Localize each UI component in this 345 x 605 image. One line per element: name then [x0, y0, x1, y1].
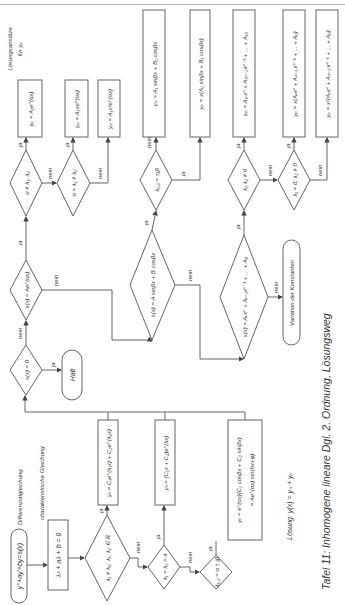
- yp-trig-1-text: yₚ = A₁ sinβx + B₁ cosβx: [152, 41, 158, 107]
- yes-label: ja: [17, 240, 23, 246]
- flowchart: y''+ay'+by=s(x) Differenzialgleichung λ²…: [0, 0, 345, 605]
- yes-label: ja: [64, 142, 70, 148]
- yh-real-distinct-text: yₕ = C₁e^(λ₁x) + C₂e^(λ₂x): [106, 429, 112, 498]
- yes-label: ja: [207, 546, 213, 552]
- no-label: nein: [187, 551, 193, 563]
- figure-caption: Tafel 11: Inhomogene lineare Dgl. 2. Ord…: [320, 313, 332, 590]
- no-label: nein: [317, 164, 323, 176]
- d-l1-zero-text: λ₁ = 0; λ₂ ≠ 0: [292, 163, 298, 198]
- ansatz-header-2: für yₚ: [17, 42, 23, 57]
- no-label: nein: [53, 274, 59, 286]
- label-differential-equation: Differenzialgleichung: [17, 469, 23, 525]
- yes-label: ja: [155, 534, 161, 540]
- flowchart-canvas: y''+ay'+by=s(x) Differenzialgleichung λ²…: [0, 0, 345, 605]
- d-double-root-text: λ₁ = λ₂ = λ: [162, 554, 168, 582]
- d-real-distinct-text: λ₁ ≠ λ₂; λ₁, λ₂ ∈ ℝ: [105, 535, 111, 583]
- yes-label: ja: [17, 142, 23, 148]
- char-eq-text: λ² + aλ + b = 0: [55, 532, 62, 578]
- yp-trig-2-text: yₚ = x(A₁ sinβx + B₁ cosβx): [198, 38, 204, 111]
- d-s-zero-text: s(x) = 0: [24, 359, 30, 380]
- yh-double-root-text: yₕ = (C₁x + C₂)e^(λx): [163, 436, 169, 492]
- start-text: y''+ay'+by=s(x): [16, 543, 24, 590]
- yp-poly-1-text: yₚ = A₁ₙxⁿ + A₁₍ₙ₋₁₎xⁿ⁻¹ + ... + A₁₀: [242, 31, 248, 117]
- variation-text: Variation der Konstanten: [289, 259, 295, 325]
- yh-complex-text-1: yₕ = e^(αx)(C₁ cosβx + C₂ sinβx): [236, 437, 242, 523]
- no-label: nein: [97, 167, 103, 179]
- no-label: nein: [187, 269, 193, 281]
- yes-label: ja: [180, 171, 186, 177]
- yp-exp-3-text: yₚ = A₁x²e^(αx): [107, 89, 113, 130]
- d-alpha-ne-text: α ≠ λ₁, λ₂: [24, 171, 30, 195]
- yh-complex-text-2: = Ae^(αx) sin(bx+φ): [249, 454, 255, 507]
- d-l1l2-ne0-text: λ₁·λ₂ ≠ 0: [242, 168, 248, 192]
- d-s-trig-text: s(x) = A sinβx + B cosβx: [150, 252, 156, 317]
- ansatz-header-1: Lösungsansätze: [7, 26, 13, 70]
- no-label: nein: [146, 136, 152, 148]
- yes-label: ja: [50, 362, 56, 368]
- yh-box-complex: [228, 420, 262, 540]
- yes-label: ja: [143, 220, 149, 226]
- no-label: nein: [267, 164, 273, 176]
- d-lambda-jbeta-text: λ₁,₂ = ±jβ: [154, 168, 160, 193]
- no-label: nein: [135, 541, 141, 553]
- d-alpha-eq-l1-text: α = λ₁ ≠ λ₂: [71, 169, 77, 197]
- halt-text: Halt: [69, 368, 76, 382]
- d-complex-text: λ₁,₂ = α ± jβ: [214, 556, 220, 588]
- yp-poly-2-text: yₚ = x(Aₙxⁿ + A₍ₙ₋₁₎xⁿ⁻¹ + ... + A₀): [292, 31, 298, 118]
- yes-label: ja: [235, 224, 241, 230]
- yes-label: ja: [235, 143, 241, 149]
- solution-label: Lösung: y(x) = yₕ + yₚ: [286, 473, 294, 540]
- no-label: nein: [47, 167, 53, 179]
- yes-label: ja: [98, 508, 104, 514]
- no-label: nein: [17, 327, 23, 339]
- yp-poly-3-text: yₚ = x²(Aₙxⁿ + A₍ₙ₋₁₎xⁿ⁻¹ + ... + A₀): [325, 30, 331, 119]
- d-s-poly-text: s(x) = Aₙxⁿ + Aₙ₋₁xⁿ⁻¹ + ... + A₀: [242, 256, 248, 337]
- label-characteristic-equation: charakteristische Gleichung: [39, 446, 45, 520]
- d-s-exp-text: s(x) = Ae^(αx): [24, 271, 30, 308]
- yes-label: ja: [285, 143, 291, 149]
- no-label: nein: [273, 281, 279, 293]
- yp-exp-1-text: yₚ = A₁e^(αx): [28, 91, 34, 127]
- yp-exp-2-text: yₚ = A₁xe^(αx): [74, 90, 80, 129]
